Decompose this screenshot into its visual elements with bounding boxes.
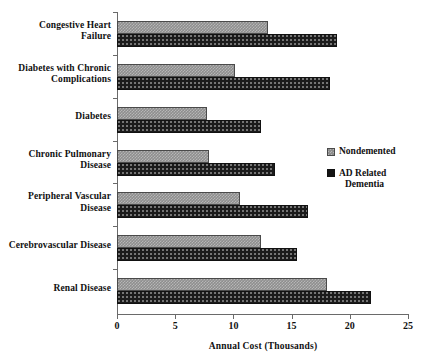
bar-group <box>117 98 408 141</box>
bar-nondemented[interactable] <box>117 278 327 291</box>
bar-nondemented[interactable] <box>117 235 261 248</box>
bar-ad-related-dementia[interactable] <box>117 120 261 133</box>
bar-ad-related-dementia[interactable] <box>117 77 330 90</box>
category-label: Diabetes <box>0 111 111 123</box>
category-label: Chronic Pulmonary Disease <box>0 149 111 172</box>
x-axis-tick <box>233 314 234 319</box>
bar-group <box>117 269 408 312</box>
bar-chart: Congestive Heart FailureDiabetes with Ch… <box>0 0 433 361</box>
y-axis-tick <box>113 226 117 227</box>
x-axis-tick-label: 10 <box>213 320 253 331</box>
x-axis-title: Annual Cost (Thousands) <box>117 341 409 351</box>
legend-item-nondemented[interactable]: Nondemented <box>327 146 431 158</box>
bar-ad-related-dementia[interactable] <box>117 163 275 176</box>
y-axis-tick <box>113 269 117 270</box>
x-axis-tick <box>292 314 293 319</box>
legend-label-ad-line2: Dementia <box>339 179 431 191</box>
category-label: Cerebrovascular Disease <box>0 240 111 252</box>
bar-group <box>117 12 408 55</box>
x-axis-tick <box>175 314 176 319</box>
bar-nondemented[interactable] <box>117 21 268 34</box>
x-axis-tick-label: 0 <box>97 320 137 331</box>
y-axis-tick <box>113 55 117 56</box>
y-axis-tick <box>113 12 117 13</box>
x-axis-tick-label: 20 <box>330 320 370 331</box>
bar-nondemented[interactable] <box>117 64 235 77</box>
x-axis-tick-label: 5 <box>155 320 195 331</box>
x-axis-tick <box>408 314 409 319</box>
y-axis-tick <box>113 183 117 184</box>
y-axis-tick <box>113 141 117 142</box>
bar-group <box>117 55 408 98</box>
bar-ad-related-dementia[interactable] <box>117 248 297 261</box>
category-label: Renal Disease <box>0 283 111 295</box>
bar-nondemented[interactable] <box>117 107 207 120</box>
bar-nondemented[interactable] <box>117 192 240 205</box>
x-axis-line <box>117 314 409 315</box>
y-axis-tick <box>113 98 117 99</box>
x-axis-tick-label: 25 <box>388 320 428 331</box>
legend-label-ad-line1: AD Related <box>339 168 431 180</box>
legend-item-ad-related-dementia[interactable]: AD Related Dementia <box>327 168 431 191</box>
category-label: Peripheral Vascular Disease <box>0 191 111 214</box>
x-axis-tick <box>117 314 118 319</box>
x-axis-tick-label: 15 <box>272 320 312 331</box>
bar-group <box>117 226 408 269</box>
legend-label-nondemented: Nondemented <box>339 146 431 158</box>
bar-ad-related-dementia[interactable] <box>117 291 371 304</box>
bar-ad-related-dementia[interactable] <box>117 34 337 47</box>
bar-ad-related-dementia[interactable] <box>117 205 308 218</box>
category-label: Congestive Heart Failure <box>0 20 111 43</box>
bar-nondemented[interactable] <box>117 150 209 163</box>
chart-legend: Nondemented AD Related Dementia <box>327 146 431 201</box>
legend-swatch-ad-icon <box>327 169 335 177</box>
legend-swatch-nondemented-icon <box>327 148 335 156</box>
category-label: Diabetes with Chronic Complications <box>0 63 111 86</box>
x-axis-tick <box>350 314 351 319</box>
